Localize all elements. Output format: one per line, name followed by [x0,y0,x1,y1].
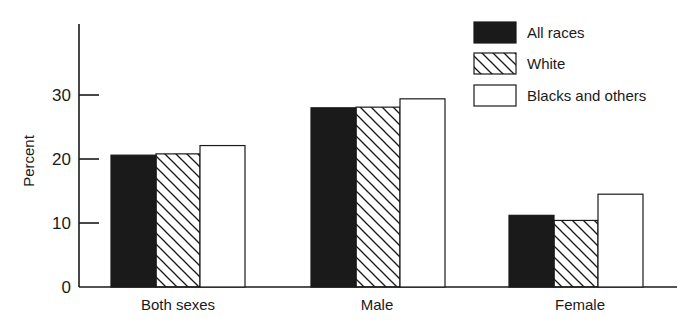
legend-label: Blacks and others [527,87,646,104]
legend-item-white: White [474,53,565,74]
x-category-label: Both sexes [141,296,215,313]
legend-swatch-white [474,85,516,106]
bars [111,99,643,287]
bar-solid-black [509,215,554,287]
bar-hatched [356,107,400,287]
bar-white [400,99,445,287]
y-tick-label: 20 [52,150,71,169]
category-labels: Both sexesMaleFemale [141,296,605,313]
y-tick-label: 10 [52,214,71,233]
legend-label: White [527,55,565,72]
bar-group-male [311,99,445,287]
y-axis-title: Percent [20,134,37,187]
legend: All races White Blacks and others [474,22,646,106]
x-category-label: Female [555,296,605,313]
bar-white [200,146,245,287]
legend-swatch-hatch [474,53,516,74]
legend-label: All races [527,24,585,41]
y-axis-ticks: 0102030 [52,86,99,297]
bar-group-female [509,194,643,287]
legend-item-all-races: All races [474,22,585,43]
bar-hatched [554,220,598,287]
legend-swatch-solid-black [474,22,516,43]
bar-white [598,194,643,287]
y-tick-label: 0 [62,278,71,297]
legend-item-blacks-and-others: Blacks and others [474,85,646,106]
bar-solid-black [311,108,356,287]
bar-group-both-sexes [111,146,245,287]
y-tick-label: 30 [52,86,71,105]
x-category-label: Male [361,296,394,313]
bar-hatched [156,154,200,287]
bar-solid-black [111,155,156,287]
bar-chart: Percent 0102030 Both sexesMaleFemale All… [0,0,692,326]
